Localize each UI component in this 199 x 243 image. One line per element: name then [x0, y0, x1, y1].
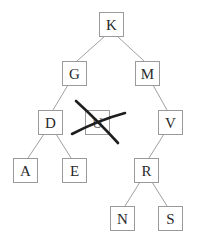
tree-node-M: M: [136, 62, 160, 86]
edge-D-A: [28, 134, 44, 158]
node-label: N: [117, 211, 128, 227]
node-label: D: [45, 115, 56, 131]
edge-D-E: [56, 134, 71, 158]
tree-node-K: K: [100, 13, 124, 37]
node-label: A: [20, 163, 31, 179]
edge-K-G: [77, 36, 105, 61]
node-label: G: [69, 66, 80, 82]
tree-node-S: S: [159, 207, 183, 231]
node-label: V: [165, 115, 176, 131]
node-label: R: [141, 163, 151, 179]
tree-diagram: KGMDUVAERNS: [0, 0, 199, 243]
edge-R-N: [125, 182, 140, 206]
node-label: E: [70, 163, 79, 179]
tree-node-E: E: [63, 159, 87, 183]
tree-node-A: A: [14, 159, 38, 183]
edge-K-M: [117, 36, 144, 61]
node-label: K: [106, 17, 117, 33]
cross-out-mark: [72, 101, 125, 143]
edge-R-S: [152, 182, 167, 206]
edge-G-D: [53, 85, 68, 110]
tree-node-D: D: [39, 111, 63, 135]
tree-node-G: G: [63, 62, 87, 86]
edge-V-R: [149, 134, 164, 158]
edge-M-V: [153, 85, 167, 110]
node-label: M: [141, 66, 154, 82]
node-label: S: [166, 211, 174, 227]
tree-node-R: R: [135, 159, 159, 183]
tree-node-V: V: [159, 111, 183, 135]
tree-node-N: N: [111, 207, 135, 231]
